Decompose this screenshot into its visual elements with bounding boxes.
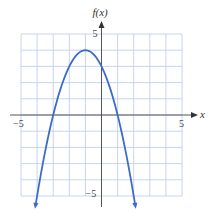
y-axis-arrow-icon	[99, 21, 105, 28]
x-tick-neg5: −5	[13, 118, 24, 129]
y-tick-neg5: −5	[86, 188, 97, 199]
curve-arrow-right-icon	[132, 203, 137, 209]
y-axis-label: f(x)	[93, 6, 109, 19]
axes	[10, 21, 198, 207]
x-axis-label: x	[199, 108, 205, 120]
curve-arrow-left-icon	[33, 203, 38, 209]
y-tick-5: 5	[93, 28, 98, 39]
x-tick-5: 5	[179, 118, 184, 129]
parabola-chart: −5 5 5 −5 x f(x)	[0, 0, 209, 219]
x-axis-arrow-icon	[191, 112, 198, 118]
